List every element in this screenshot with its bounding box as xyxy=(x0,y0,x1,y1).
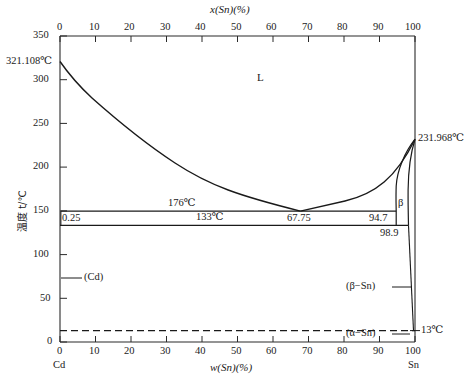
y-tick-label-0: 0 xyxy=(47,336,52,347)
top-tick-label-30: 30 xyxy=(160,22,171,33)
top-axis-ticks xyxy=(60,36,415,42)
bottom-tick-label-80: 80 xyxy=(337,346,348,357)
beta-sn-phase-label: (β−Sn) xyxy=(346,281,375,292)
phase-diagram-figure: 350 300 250 200 150 100 50 0 0 10 20 30 … xyxy=(0,0,469,380)
curve-beta-right-boundary xyxy=(408,139,415,225)
top-tick-label-10: 10 xyxy=(89,22,100,33)
top-tick-label-50: 50 xyxy=(231,22,242,33)
line-betaSn-solvus xyxy=(409,225,414,330)
bottom-tick-label-90: 90 xyxy=(373,346,384,357)
sn-melting-point-label: 231.968℃ xyxy=(418,133,464,144)
bottom-tick-label-50: 50 xyxy=(231,346,242,357)
y-tick-label-350: 350 xyxy=(33,30,49,41)
cd-phase-label: (Cd) xyxy=(84,272,103,283)
beta-phase-label: β xyxy=(398,198,403,209)
bottom-tick-label-10: 10 xyxy=(89,346,100,357)
top-tick-label-20: 20 xyxy=(124,22,135,33)
y-axis-title: 温度 t/℃ xyxy=(14,190,29,232)
peritectic-temp-label: 176℃ xyxy=(168,198,196,209)
cd-solubility-label: 0.25 xyxy=(62,213,80,224)
top-tick-label-60: 60 xyxy=(266,22,277,33)
y-tick-label-200: 200 xyxy=(33,161,49,172)
y-tick-label-50: 50 xyxy=(40,293,51,304)
curve-cd-liquidus xyxy=(60,62,300,212)
y-tick-label-250: 250 xyxy=(33,118,49,129)
bottom-tick-label-100: 100 xyxy=(405,346,421,357)
liquid-region-label: L xyxy=(257,72,264,83)
top-axis-title: x(Sn)(%) xyxy=(210,4,250,15)
bottom-tick-label-40: 40 xyxy=(195,346,206,357)
bottom-tick-label-70: 70 xyxy=(302,346,313,357)
axis-frame xyxy=(60,36,415,342)
bottom-tick-label-0: 0 xyxy=(57,346,62,357)
allotropic-temp-label: 13℃ xyxy=(421,325,443,336)
top-tick-label-0: 0 xyxy=(57,22,62,33)
endmember-label-cd: Cd xyxy=(53,360,65,371)
top-tick-label-80: 80 xyxy=(337,22,348,33)
bottom-axis-title: w(Sn)(%) xyxy=(210,362,252,373)
y-tick-label-100: 100 xyxy=(33,249,49,260)
top-tick-label-90: 90 xyxy=(373,22,384,33)
endmember-label-sn: Sn xyxy=(408,360,419,371)
cd-melting-point-label: 321.108℃ xyxy=(6,56,52,67)
bottom-tick-label-30: 30 xyxy=(160,346,171,357)
bottom-tick-label-20: 20 xyxy=(124,346,135,357)
alpha-sn-phase-label: (α−Sn) xyxy=(346,328,376,339)
y-tick-label-300: 300 xyxy=(33,74,49,85)
bottom-tick-label-60: 60 xyxy=(266,346,277,357)
phase-diagram-svg xyxy=(0,0,469,380)
y-axis-ticks xyxy=(60,36,67,342)
top-tick-label-100: 100 xyxy=(405,22,421,33)
sn-solubility-label: 98.9 xyxy=(380,228,398,239)
top-tick-label-40: 40 xyxy=(195,22,206,33)
peritectic-comp-label: 94.7 xyxy=(369,213,387,224)
eutectic-comp-label: 67.75 xyxy=(287,213,311,224)
y-tick-label-150: 150 xyxy=(33,205,49,216)
eutectic-temp-label: 133℃ xyxy=(196,212,224,223)
top-tick-label-70: 70 xyxy=(302,22,313,33)
